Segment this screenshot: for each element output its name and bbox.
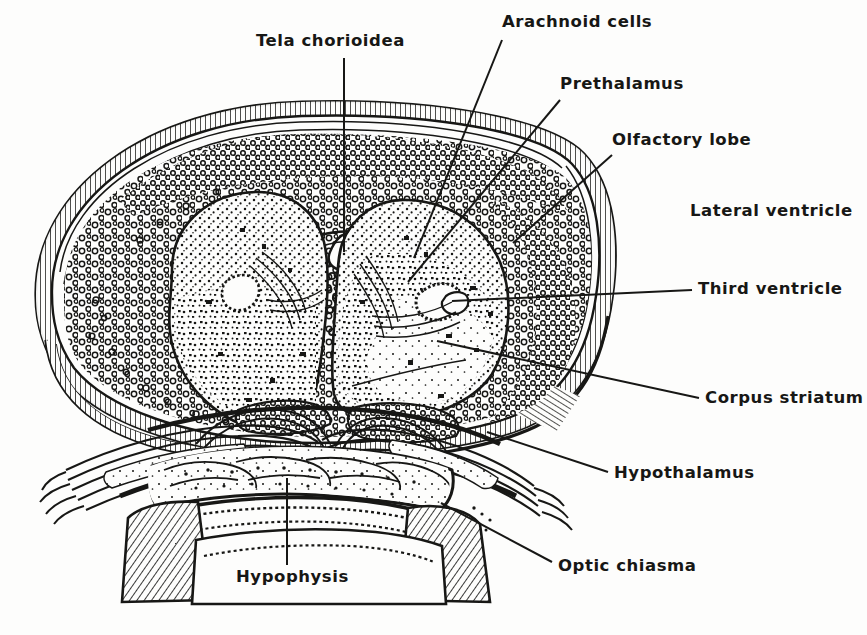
label-hypothalamus: Hypothalamus [614, 465, 755, 482]
label-olfactory-lobe: Olfactory lobe [612, 132, 751, 149]
label-third-ventricle: Third ventricle [698, 281, 843, 298]
label-tela-chorioidea: Tela chorioidea [256, 33, 405, 50]
right-hemisphere [332, 200, 508, 420]
anatomical-figure: Tela chorioidea Arachnoid cells Prethala… [0, 0, 867, 635]
label-optic-chiasma: Optic chiasma [558, 558, 697, 575]
left-lateral-ventricle [222, 275, 259, 310]
label-hypophysis: Hypophysis [236, 569, 349, 586]
label-arachnoid-cells: Arachnoid cells [502, 14, 652, 31]
label-prethalamus: Prethalamus [560, 76, 684, 93]
brain-cross-section-illustration [0, 0, 867, 635]
label-corpus-striatum: Corpus striatum [705, 390, 863, 407]
third-ventricle-cavity [442, 292, 468, 314]
label-lateral-ventricle: Lateral ventricle [690, 203, 853, 220]
